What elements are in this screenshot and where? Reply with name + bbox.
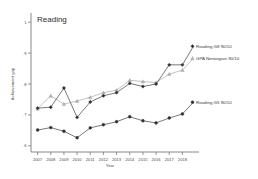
data-point [141,119,144,122]
chart-labels-layer: YearAchievement gapReadingReading G8 90/… [10,15,240,168]
y-axis-title: Achievement gap [10,67,15,100]
legend-item-1: GPA Norwegian 90/10 [182,56,239,71]
data-point [102,123,105,126]
legend-marker [191,101,194,104]
series-1 [36,68,184,110]
data-point [181,63,184,66]
x-tick-label: 2010 [73,157,83,162]
line-chart: 1.9.8.7.62007200820092010201120122013201… [0,0,258,179]
data-point [36,129,39,132]
legend-label: Reading G8 90/10 [196,44,232,49]
x-tick-label: 2016 [152,157,162,162]
x-tick-label: 2008 [46,157,56,162]
x-tick-label: 2018 [178,157,188,162]
data-point [49,126,52,129]
legend-item-2: Reading G5 90/10 [182,100,232,114]
y-tick-label: .8 [23,82,27,87]
x-tick-label: 2013 [112,157,122,162]
legend-connector [182,58,193,70]
legend-label: Reading G5 90/10 [196,100,232,105]
legend-connector [182,46,193,65]
y-tick-label: .6 [23,143,27,148]
x-tick-label: 2015 [138,157,148,162]
y-tick-label: 1 [24,20,27,25]
legend-connector [182,102,193,114]
x-tick-label: 2011 [86,157,96,162]
data-point [49,94,52,97]
data-point [89,126,92,129]
data-point [128,115,131,118]
series-2 [36,113,184,140]
y-tick-label: .7 [23,112,27,117]
data-point [141,85,144,88]
x-tick-label: 2007 [33,157,43,162]
chart-container: 1.9.8.7.62007200820092010201120122013201… [0,0,258,179]
data-point [102,94,105,97]
data-point [76,136,79,139]
data-point [168,117,171,120]
chart-series-layer [36,63,184,139]
series-line [38,70,183,109]
legend-label: GPA Norwegian 90/10 [196,56,240,61]
legend-marker [191,45,194,48]
x-tick-label: 2009 [59,157,69,162]
y-tick-label: .9 [23,51,27,56]
x-axis-title: Year [106,163,115,168]
chart-axes: 1.9.8.7.62007200820092010201120122013201… [23,13,199,162]
x-tick-label: 2014 [125,157,135,162]
legend-marker [191,57,194,60]
data-point [115,120,118,123]
chart-title: Reading [37,15,67,24]
x-tick-label: 2017 [165,157,175,162]
data-point [155,121,158,124]
data-point [62,130,65,133]
series-line [38,114,183,138]
x-tick-label: 2012 [99,157,109,162]
